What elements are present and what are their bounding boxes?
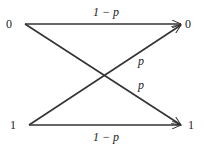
output-node-0: 0 <box>185 18 191 30</box>
input-node-0: 0 <box>6 18 12 30</box>
channel-diagram <box>0 0 204 149</box>
edge-label-0-0: 1 − p <box>93 6 119 18</box>
edge-label-1-1: 1 − p <box>93 131 119 143</box>
input-node-1: 1 <box>10 119 16 131</box>
edge-label-1-0: p <box>138 55 144 67</box>
output-node-1: 1 <box>188 119 194 131</box>
edge-0-1 <box>25 24 181 125</box>
edge-label-0-1: p <box>138 79 144 91</box>
